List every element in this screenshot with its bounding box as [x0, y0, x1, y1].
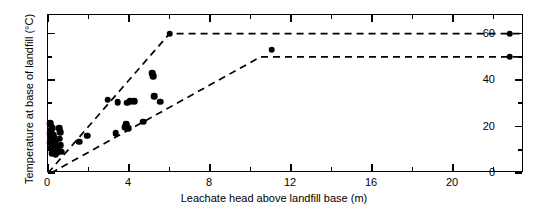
axis-tick [452, 164, 454, 171]
axis-tick [128, 164, 130, 171]
y-axis-title: Temperature at base of landfill (°C) [23, 14, 35, 184]
axis-tick [331, 167, 333, 171]
data-point [140, 119, 147, 126]
x-tick-label: 16 [365, 176, 377, 188]
data-point [157, 99, 164, 106]
axis-tick [515, 126, 522, 128]
axis-tick [515, 33, 522, 35]
axis-tick [48, 56, 52, 58]
data-point [507, 30, 514, 37]
data-point [76, 139, 83, 146]
axis-tick [371, 15, 373, 22]
axis-tick [48, 102, 52, 104]
x-axis-title: Leachate head above landfill base (m) [0, 192, 548, 204]
axis-tick [452, 15, 454, 22]
axis-tick [518, 149, 522, 151]
data-point [507, 54, 514, 61]
axis-tick [412, 167, 414, 171]
axis-tick [48, 172, 55, 174]
axis-tick [48, 79, 55, 81]
axis-tick [412, 15, 414, 19]
axis-tick [493, 15, 495, 19]
data-point [166, 30, 173, 37]
axis-tick [290, 164, 292, 171]
axis-tick [250, 15, 252, 19]
data-point [131, 98, 138, 105]
axis-tick [47, 164, 49, 171]
axis-tick [128, 15, 130, 22]
axis-tick [48, 33, 55, 35]
axis-tick [290, 15, 292, 22]
axis-tick [331, 15, 333, 19]
data-point [113, 130, 120, 137]
y-tick-label: 20 [483, 120, 495, 132]
plot-frame [47, 14, 523, 172]
axis-tick [88, 167, 90, 171]
axis-tick [209, 15, 211, 22]
x-axis-title-text: Leachate head above landfill base (m) [181, 192, 368, 204]
axis-tick [47, 15, 49, 22]
axis-tick [371, 164, 373, 171]
data-point [104, 97, 111, 104]
data-point [150, 73, 157, 80]
axis-tick [209, 164, 211, 171]
lower-bound-line [51, 57, 524, 173]
y-axis-title-text: Temperature at base of landfill (°C) [23, 14, 35, 184]
y-tick-label: 60 [483, 27, 495, 39]
axis-tick [88, 15, 90, 19]
axis-tick [250, 167, 252, 171]
axis-tick [518, 102, 522, 104]
data-point [84, 133, 91, 140]
axis-tick [515, 79, 522, 81]
data-point [115, 99, 122, 106]
axis-tick [169, 15, 171, 19]
x-tick-label: 20 [446, 176, 458, 188]
x-tick-label: 12 [284, 176, 296, 188]
axis-tick [518, 56, 522, 58]
figure-scatter-landfill-temperature: 0204060 048121620 Leachate head above la… [0, 0, 548, 213]
y-tick-label: 40 [483, 73, 495, 85]
data-point [151, 93, 158, 100]
y-tick-label: 0 [489, 166, 495, 178]
data-point [125, 125, 132, 132]
data-point [58, 148, 65, 155]
bound-lines-layer [48, 15, 524, 173]
x-tick-label: 0 [44, 176, 50, 188]
data-point [269, 47, 276, 54]
axis-tick [515, 172, 522, 174]
x-tick-label: 8 [206, 176, 212, 188]
axis-tick [169, 167, 171, 171]
x-tick-label: 4 [125, 176, 131, 188]
